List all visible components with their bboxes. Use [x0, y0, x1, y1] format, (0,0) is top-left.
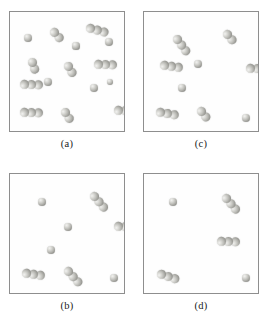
particle-cluster: [24, 34, 33, 43]
particle-cluster: [88, 190, 109, 213]
sphere: [107, 79, 114, 86]
panel-c: (c): [134, 0, 268, 162]
particle-cluster: [169, 198, 177, 206]
particle-cluster: [216, 236, 239, 246]
particle-cluster: [62, 265, 84, 288]
sphere: [245, 63, 254, 72]
sphere: [113, 221, 122, 230]
sphere: [105, 38, 113, 46]
panel-d: (d): [134, 162, 268, 324]
particle-cluster: [93, 59, 116, 69]
sphere: [72, 42, 79, 49]
sphere: [242, 274, 250, 282]
sphere: [44, 78, 52, 86]
particle-cluster: [194, 60, 202, 68]
panel-b-plot: [10, 174, 124, 293]
panel-b-caption: (b): [0, 300, 134, 311]
panel-a-box: [9, 11, 125, 132]
particle-cluster: [59, 106, 75, 124]
particle-cluster: [38, 198, 46, 206]
sphere: [242, 114, 250, 122]
panel-d-caption: (d): [134, 300, 268, 311]
sphere: [38, 198, 46, 206]
particle-cluster: [64, 223, 73, 232]
particle-cluster: [19, 107, 42, 117]
panel-c-caption: (c): [134, 138, 268, 149]
panel-d-plot: [144, 174, 258, 293]
particle-cluster: [171, 33, 192, 57]
particle-cluster: [90, 84, 98, 92]
particle-cluster: [47, 246, 55, 254]
particle-cluster: [105, 38, 113, 46]
particle-cluster: [21, 268, 45, 280]
sphere: [24, 34, 33, 43]
sphere: [19, 79, 28, 88]
panel-b-box: [9, 173, 125, 294]
figure-container: (a) (c) (b) (d): [0, 0, 268, 324]
sphere: [93, 59, 102, 68]
sphere: [169, 198, 177, 206]
particle-cluster: [113, 221, 124, 231]
sphere: [64, 223, 73, 232]
particle-cluster: [62, 60, 78, 78]
particle-cluster: [26, 56, 39, 74]
sphere: [47, 246, 55, 254]
particle-cluster: [220, 192, 241, 215]
sphere: [90, 84, 98, 92]
particle-cluster: [159, 60, 183, 72]
particle-cluster: [155, 107, 179, 120]
particle-cluster: [44, 78, 52, 86]
panel-c-box: [143, 11, 259, 132]
sphere: [19, 107, 28, 116]
panel-b: (b): [0, 162, 134, 324]
particle-cluster: [245, 63, 258, 73]
panel-a-caption: (a): [0, 138, 134, 149]
panel-a: (a): [0, 0, 134, 162]
panel-a-plot: [10, 12, 124, 131]
sphere: [21, 268, 31, 278]
particle-cluster: [48, 26, 65, 44]
particle-cluster: [242, 114, 250, 122]
panel-c-plot: [144, 12, 258, 131]
sphere: [194, 60, 202, 68]
particle-cluster: [113, 105, 124, 115]
panel-d-box: [143, 173, 259, 294]
particle-cluster: [19, 79, 42, 89]
particle-cluster: [110, 274, 118, 282]
particle-cluster: [178, 84, 186, 92]
sphere: [113, 105, 122, 114]
sphere: [178, 84, 186, 92]
particle-cluster: [155, 268, 179, 283]
particle-cluster: [72, 42, 79, 49]
sphere: [159, 60, 169, 70]
sphere: [110, 274, 118, 282]
particle-cluster: [107, 79, 114, 86]
particle-cluster: [195, 105, 212, 123]
particle-cluster: [85, 23, 109, 37]
sphere: [155, 107, 165, 117]
particle-cluster: [221, 28, 238, 46]
sphere: [216, 236, 225, 245]
particle-cluster: [242, 274, 250, 282]
